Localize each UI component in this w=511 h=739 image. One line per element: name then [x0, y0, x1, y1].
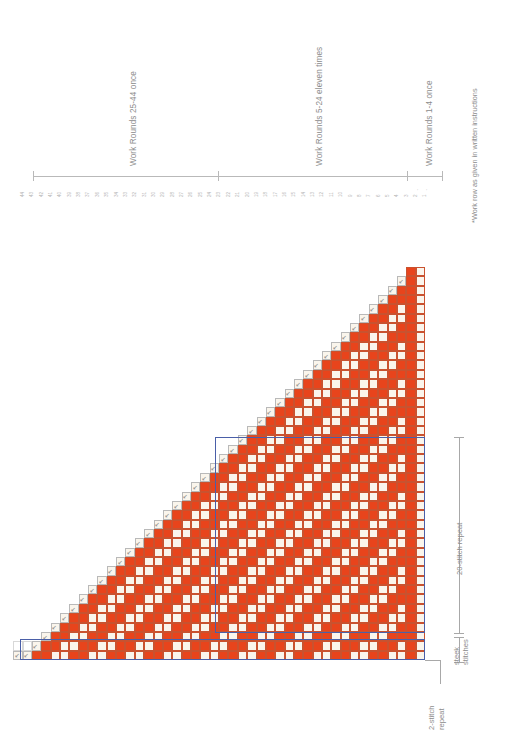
two-stitch-repeat-label-line-1: 2-stitch [427, 706, 436, 730]
chart-cell [247, 604, 256, 613]
chart-cell [172, 557, 181, 566]
chart-cell-decrease [369, 304, 378, 313]
chart-cell [303, 379, 312, 388]
chart-cell [350, 501, 359, 510]
chart-cell [388, 379, 397, 388]
chart-cell [163, 613, 172, 622]
chart-cell [79, 604, 88, 613]
chart-cell [294, 576, 303, 585]
chart-cell [416, 417, 425, 426]
chart-cell [350, 473, 359, 482]
chart-cell [388, 295, 397, 304]
chart-cell [303, 435, 312, 444]
chart-cell [97, 594, 106, 603]
chart-cell [331, 510, 340, 519]
chart-cell [228, 482, 237, 491]
chart-cell [247, 557, 256, 566]
chart-cell [247, 576, 256, 585]
chart-cell [406, 501, 415, 510]
chart-cell [257, 632, 266, 641]
chart-cell [247, 538, 256, 547]
chart-cell [266, 538, 275, 547]
chart-cell [388, 417, 397, 426]
chart-cell [369, 389, 378, 398]
chart-cell-decrease [172, 501, 181, 510]
chart-cell [369, 360, 378, 369]
chart-cell [303, 417, 312, 426]
chart-cell [350, 604, 359, 613]
chart-cell [331, 520, 340, 529]
chart-cell [172, 641, 181, 650]
chart-cell [182, 613, 191, 622]
chart-cell [210, 520, 219, 529]
chart-cell [378, 332, 387, 341]
chart-cell [359, 604, 368, 613]
chart-cell [303, 623, 312, 632]
chart-cell [369, 529, 378, 538]
chart-cell [294, 594, 303, 603]
stitch-repeat-measure-cap-bottom [454, 633, 464, 634]
chart-cell [416, 613, 425, 622]
chart-cell [369, 576, 378, 585]
chart-cell [341, 529, 350, 538]
chart-cell [219, 585, 228, 594]
chart-cell [397, 529, 406, 538]
chart-cell [397, 623, 406, 632]
chart-cell [172, 548, 181, 557]
chart-cell [275, 651, 284, 660]
chart-cell [247, 463, 256, 472]
chart-cell [416, 295, 425, 304]
chart-cell [359, 426, 368, 435]
chart-cell [322, 613, 331, 622]
chart-cell [331, 370, 340, 379]
chart-cell-decrease [210, 463, 219, 472]
chart-cell [294, 651, 303, 660]
chart-cell [388, 473, 397, 482]
chart-cell [341, 379, 350, 388]
chart-cell [331, 463, 340, 472]
chart-cell-decrease [23, 651, 32, 660]
chart-cell [406, 576, 415, 585]
chart-cell [116, 594, 125, 603]
chart-cell [247, 454, 256, 463]
chart-cell [191, 613, 200, 622]
chart-cell [322, 398, 331, 407]
chart-cell [228, 604, 237, 613]
chart-cell-decrease [294, 379, 303, 388]
chart-cell [182, 566, 191, 575]
chart-cell [416, 304, 425, 313]
chart-cell-decrease [79, 594, 88, 603]
chart-cell [331, 407, 340, 416]
chart-cell [313, 463, 322, 472]
chart-cell [397, 314, 406, 323]
chart-cell-decrease [359, 314, 368, 323]
chart-cell [416, 398, 425, 407]
chart-cell [79, 623, 88, 632]
chart-cell [285, 557, 294, 566]
chart-cell [313, 389, 322, 398]
chart-cell [322, 379, 331, 388]
chart-cell [350, 520, 359, 529]
chart-cell [350, 585, 359, 594]
chart-cell [406, 426, 415, 435]
chart-cell [322, 501, 331, 510]
chart-cell [378, 407, 387, 416]
chart-cell [116, 604, 125, 613]
chart-cell [154, 623, 163, 632]
chart-cell [397, 417, 406, 426]
chart-cell [350, 454, 359, 463]
chart-cell [378, 473, 387, 482]
chart-cell [378, 314, 387, 323]
chart-cell [322, 623, 331, 632]
chart-cell [294, 538, 303, 547]
chart-cell [397, 454, 406, 463]
chart-cell [238, 613, 247, 622]
chart-cell [416, 632, 425, 641]
chart-cell [406, 314, 415, 323]
chart-cell [406, 520, 415, 529]
chart-cell [154, 641, 163, 650]
chart-cell [285, 407, 294, 416]
chart-cell [341, 501, 350, 510]
chart-cell [144, 576, 153, 585]
chart-cell [191, 641, 200, 650]
